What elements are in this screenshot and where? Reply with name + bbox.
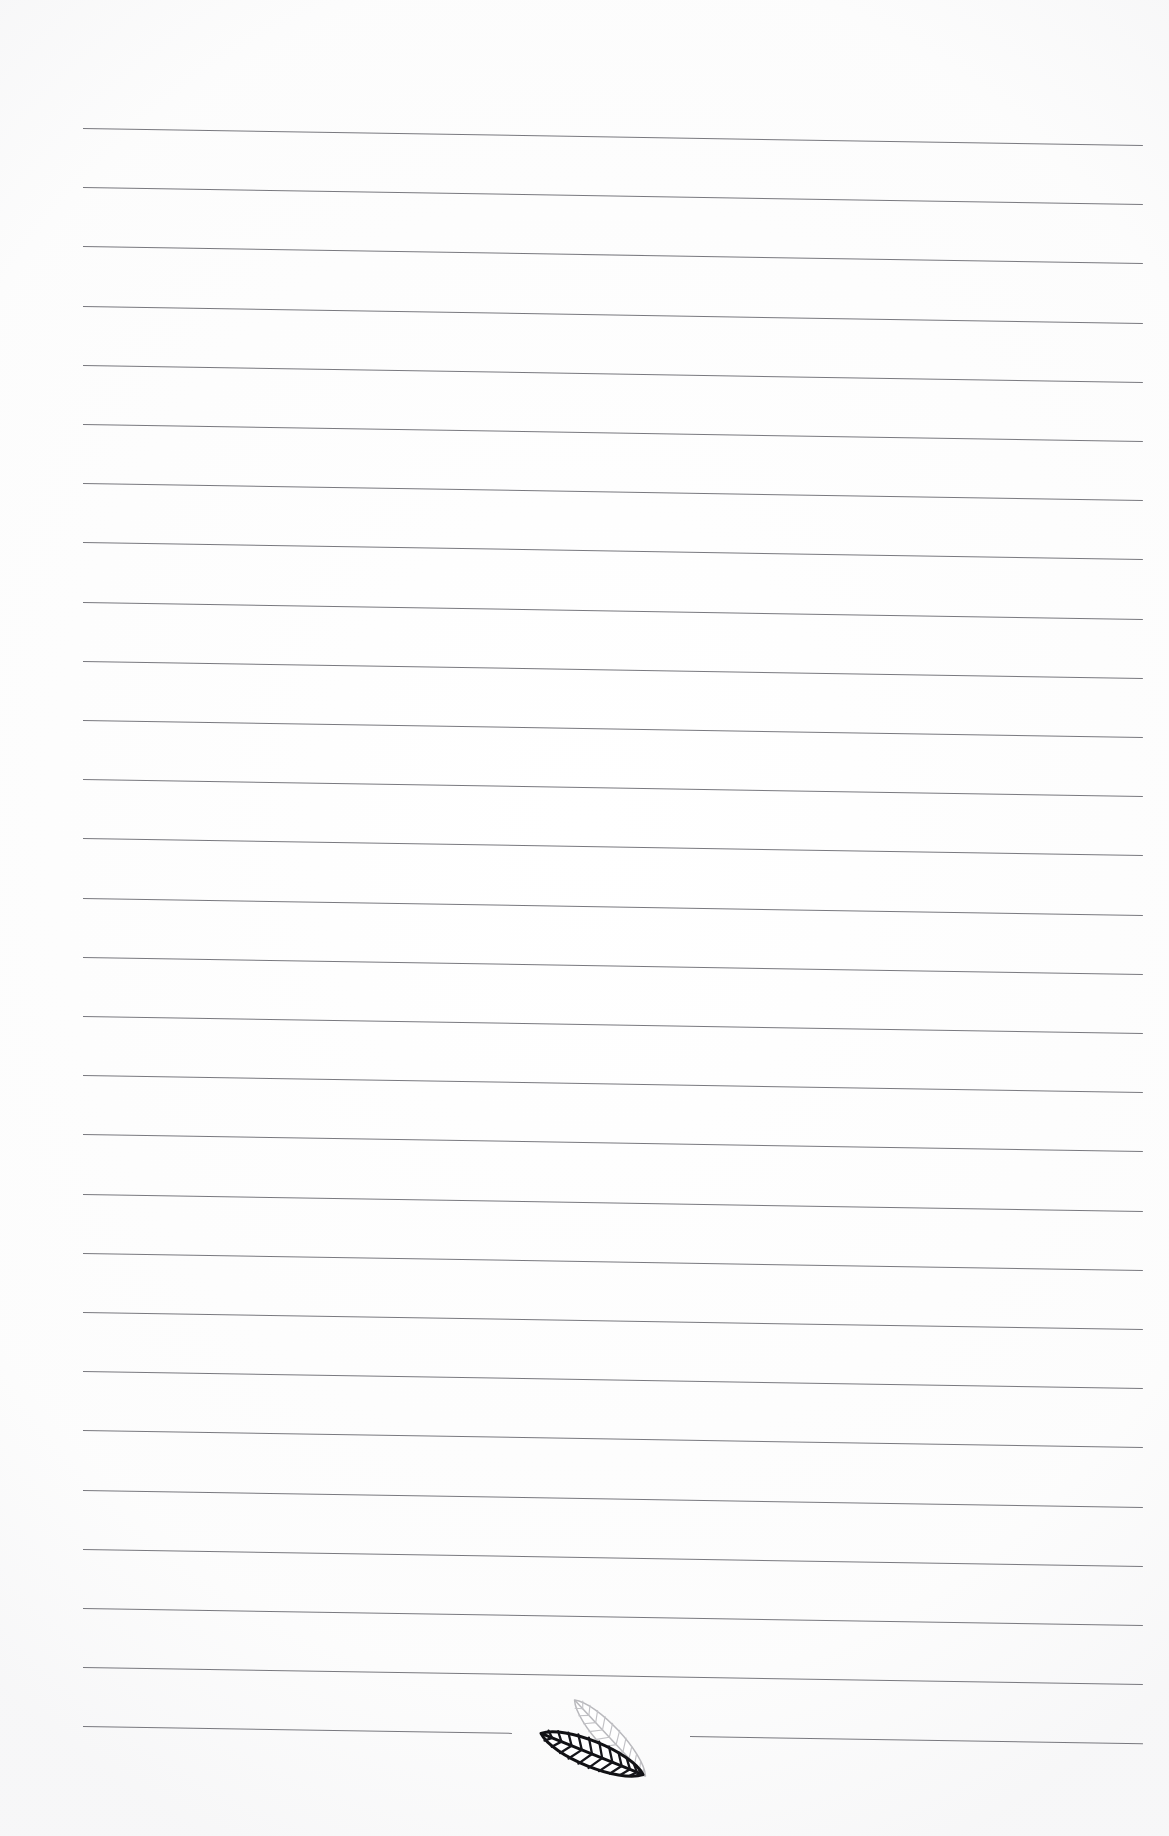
- ruled-line: [83, 542, 1143, 560]
- ruled-line: [83, 1490, 1143, 1508]
- ruled-line: [83, 779, 1143, 797]
- ruled-line: [83, 365, 1143, 383]
- ruled-line: [83, 898, 1143, 916]
- ruled-line-stack: [0, 0, 1169, 1836]
- ruled-line: [83, 1134, 1143, 1152]
- ruled-line: [83, 1549, 1143, 1567]
- ruled-line: [83, 306, 1143, 324]
- ruled-line: [83, 1075, 1143, 1093]
- ruled-line: [690, 1736, 1143, 1744]
- ruled-line: [83, 1312, 1143, 1330]
- ruled-line: [83, 957, 1143, 975]
- ruled-line: [83, 1430, 1143, 1448]
- scanned-page: [0, 0, 1169, 1836]
- two-leaf-emblem: [528, 1682, 678, 1797]
- ruled-line: [83, 720, 1143, 738]
- ruled-line: [83, 128, 1143, 146]
- ruled-line: [83, 246, 1143, 264]
- ruled-line: [83, 1371, 1143, 1389]
- ruled-line: [83, 187, 1143, 205]
- ruled-line: [83, 1194, 1143, 1212]
- ruled-line: [83, 602, 1143, 620]
- ruled-line: [83, 483, 1143, 501]
- ruled-line: [83, 838, 1143, 856]
- ruled-line: [83, 1016, 1143, 1034]
- ruled-line: [83, 1608, 1143, 1626]
- ruled-line: [83, 424, 1143, 442]
- ruled-line: [83, 661, 1143, 679]
- ruled-line: [83, 1726, 512, 1734]
- ruled-line: [83, 1253, 1143, 1271]
